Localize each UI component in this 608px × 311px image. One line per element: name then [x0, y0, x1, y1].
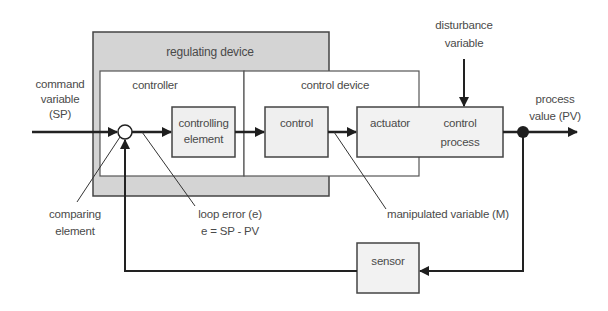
- disturbance-variable-label-2: variable: [424, 36, 504, 50]
- loop-error-label-1: loop error (e): [190, 207, 270, 221]
- regulating-device-label: regulating device: [145, 45, 275, 59]
- comparing-element-label-1: comparing: [40, 207, 110, 221]
- sensor-block: [357, 243, 419, 293]
- control-process-label-1: control: [425, 116, 495, 130]
- loop-error-label-2: e = SP - PV: [190, 224, 270, 238]
- control-label: control: [265, 116, 328, 130]
- diagram-canvas: [0, 0, 608, 311]
- control-block: [265, 107, 328, 157]
- actuator-label: actuator: [362, 116, 418, 130]
- comparing-element-circle: [118, 125, 132, 139]
- disturbance-variable-label-1: disturbance: [424, 18, 504, 32]
- controller-label: controller: [120, 78, 190, 92]
- sensor-label: sensor: [357, 254, 419, 268]
- actuator-process-block: [357, 107, 503, 157]
- controlling-element-label-2: element: [172, 132, 235, 146]
- process-value-label-2: value (PV): [520, 109, 590, 123]
- command-variable-label-3: (SP): [25, 107, 95, 121]
- control-process-label-2: process: [425, 135, 495, 149]
- command-variable-label-1: command: [25, 77, 95, 91]
- takeoff-point: [517, 126, 529, 138]
- process-value-label-1: process: [520, 92, 590, 106]
- controlling-element-label-1: controlling: [172, 116, 235, 130]
- control-device-label: control device: [285, 78, 385, 92]
- command-variable-label-2: variable: [25, 92, 95, 106]
- manipulated-variable-label: manipulated variable (M): [387, 207, 509, 221]
- comparing-element-label-2: element: [40, 224, 110, 238]
